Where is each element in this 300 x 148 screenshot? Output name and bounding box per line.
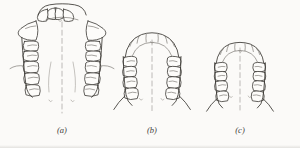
tooth-molar-left-1	[23, 61, 39, 73]
palate-fold-left-a	[10, 66, 24, 69]
tooth-premolar-left-1-c	[214, 62, 227, 72]
tooth-premolar-left-1-b	[123, 56, 137, 67]
dental-arch-panel-c: (c)	[207, 42, 274, 135]
hamular-notch-right-b	[179, 96, 190, 110]
caption-panel-a: (a)	[57, 125, 67, 135]
tooth-incisor-lateral-right	[63, 9, 74, 21]
tooth-canine-right	[86, 21, 106, 40]
tooth-premolar-left-1	[23, 41, 38, 51]
hamular-notch-left-c	[207, 99, 217, 111]
hamular-notch-left-b	[114, 96, 125, 110]
figure-plate: (a) (b)	[0, 0, 300, 148]
caption-panel-c: (c)	[235, 125, 245, 135]
tooth-premolar-right-1	[85, 41, 100, 51]
dental-arch-panel-a: (a)	[10, 4, 114, 135]
tooth-premolar-left-2-b	[122, 66, 136, 77]
palate-contour-right-a	[73, 62, 75, 92]
tooth-premolar-right-1-b	[167, 56, 181, 67]
dental-arch-panel-b: (b)	[114, 33, 191, 135]
fovea-palatinae-a	[49, 100, 74, 102]
palate-fold-right-a	[100, 66, 114, 69]
incisive-papilla-a	[59, 20, 62, 22]
tooth-incisor-central-right	[55, 8, 64, 20]
tooth-premolar-left-2	[23, 51, 38, 61]
tooth-premolar-left-2-c	[214, 71, 227, 81]
tooth-premolar-right-2-c	[253, 71, 266, 81]
caption-panel-b: (b)	[147, 125, 157, 135]
tooth-premolar-right-2-b	[167, 66, 181, 77]
dental-arch-illustration: (a) (b)	[0, 0, 300, 148]
tooth-molar-right-1	[85, 61, 101, 73]
palate-contour-left-a	[49, 62, 51, 92]
tooth-premolar-right-2	[86, 51, 101, 61]
hamular-notch-right-c	[263, 99, 273, 111]
tooth-canine-left	[18, 21, 38, 40]
tooth-premolar-right-1-c	[253, 62, 266, 72]
